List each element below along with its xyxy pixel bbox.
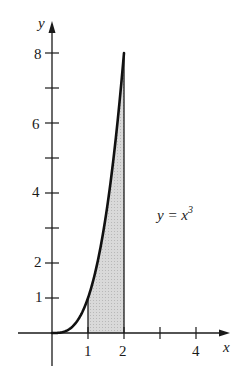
y-tick-label-2: 2 [34, 254, 42, 270]
y-axis-arrow-icon [49, 21, 56, 33]
x-tick-label-1: 1 [84, 343, 92, 359]
y-tick-label-6: 6 [32, 116, 40, 132]
shaded-area [88, 53, 124, 333]
x-tick-label-4: 4 [192, 343, 200, 359]
equation-exponent: 3 [187, 204, 193, 215]
equation-main: y = x [155, 207, 188, 223]
x-axis-arrow-icon [219, 330, 230, 337]
y-axis-label: y [36, 15, 45, 31]
x-axis-label: x [222, 339, 230, 355]
x-tick-label-2: 2 [119, 343, 127, 359]
y-tick-label-4: 4 [32, 184, 40, 200]
equation-label: y = x3 [155, 204, 193, 223]
plot-area: y x 1 2 4 1 2 4 6 8 y = x3 [0, 0, 239, 371]
chart-figure: y x 1 2 4 1 2 4 6 8 y = x3 [0, 0, 239, 371]
y-tick-label-1: 1 [35, 289, 43, 305]
y-tick-label-8: 8 [34, 46, 42, 62]
